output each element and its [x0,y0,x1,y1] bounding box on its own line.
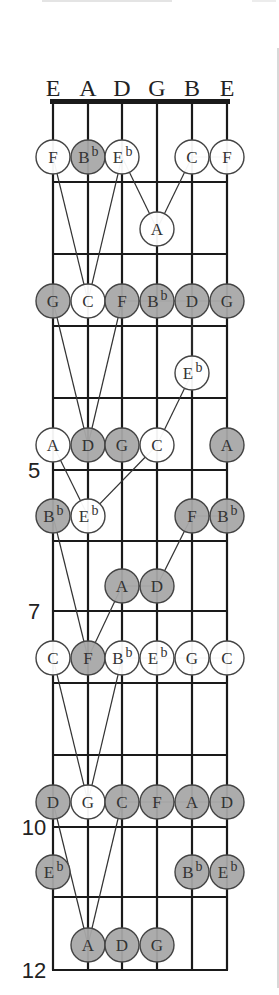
flat-accidental: b [57,503,64,518]
note-name: E [218,863,228,882]
note-name: D [186,292,198,311]
note-name: G [186,649,198,668]
note-marker: A [71,928,105,962]
note-marker: Eb [140,641,174,675]
note-marker: Bb [105,641,139,675]
note-name: A [82,936,95,955]
note-marker: Bb [140,284,174,318]
note-marker: F [210,140,244,174]
note-name: C [47,649,58,668]
note-marker: Eb [210,855,244,889]
note-marker: Bb [175,855,209,889]
note-marker: Bb [71,140,105,174]
connection-line [88,157,122,301]
note-marker: A [140,212,174,246]
note-name: A [221,436,234,455]
flat-accidental: b [161,288,168,303]
note-name: C [186,148,197,167]
note-name: E [183,364,193,383]
note-name: G [47,292,59,311]
note-name: A [47,436,60,455]
note-name: E [113,148,123,167]
note-marker: C [210,641,244,675]
note-name: A [151,220,164,239]
fret-number-label: 10 [22,815,46,840]
fret-number-labels: 571012 [22,458,46,983]
flat-accidental: b [231,859,238,874]
string-name-label: D [113,75,130,101]
note-marker: A [105,569,139,603]
note-marker: F [36,140,70,174]
note-name: B [43,507,54,526]
note-name: D [82,436,94,455]
note-name: B [147,292,158,311]
note-marker: G [140,928,174,962]
string-name-label: A [79,75,97,101]
string-name-labels: EADGBE [46,75,235,101]
note-name: C [221,649,232,668]
note-marker: D [140,569,174,603]
note-name: E [44,863,54,882]
note-name: C [82,292,93,311]
note-marker: G [210,284,244,318]
note-name: F [152,793,161,812]
note-name: F [187,507,196,526]
note-name: B [182,863,193,882]
note-name: G [82,793,94,812]
string-name-label: E [46,75,61,101]
note-name: C [151,436,162,455]
note-name: G [116,436,128,455]
flat-accidental: b [92,503,99,518]
note-marker: Eb [71,499,105,533]
connection-line [88,658,122,802]
note-name: A [116,577,129,596]
connection-line [53,516,88,658]
note-name: D [221,793,233,812]
note-marker: G [175,641,209,675]
note-marker: G [36,284,70,318]
note-marker: A [210,428,244,462]
note-name: A [186,793,199,812]
flat-accidental: b [57,859,64,874]
string-name-label: B [184,75,200,101]
note-marker: F [175,499,209,533]
flat-accidental: b [92,144,99,159]
note-marker: D [36,785,70,819]
note-name: E [79,507,89,526]
note-marker: G [71,785,105,819]
note-marker: G [105,428,139,462]
note-marker: C [140,428,174,462]
string-name-label: G [148,75,165,101]
note-marker: F [140,785,174,819]
note-name: C [116,793,127,812]
note-marker: C [71,284,105,318]
flat-accidental: b [196,360,203,375]
connection-line [53,301,88,445]
note-marker: Bb [36,499,70,533]
note-markers: FBbEbCFAGCFBbDGEbADGCABbEbFBbADCFBbEbGCD… [36,140,244,962]
note-name: D [151,577,163,596]
note-name: B [112,649,123,668]
note-name: F [222,148,231,167]
note-name: E [148,649,158,668]
note-marker: C [105,785,139,819]
note-marker: D [71,428,105,462]
flat-accidental: b [126,144,133,159]
note-marker: D [105,928,139,962]
connection-line [53,157,88,301]
flat-accidental: b [231,503,238,518]
note-marker: Eb [105,140,139,174]
connection-line [53,658,88,802]
note-marker: Eb [36,855,70,889]
flat-accidental: b [161,645,168,660]
note-marker: A [175,785,209,819]
fret-number-label: 7 [28,599,40,624]
note-marker: Eb [175,356,209,390]
note-marker: F [105,284,139,318]
note-marker: C [36,641,70,675]
connection-line [88,301,122,445]
string-name-label: E [220,75,235,101]
flat-accidental: b [126,645,133,660]
flat-accidental: b [196,859,203,874]
note-marker: D [175,284,209,318]
